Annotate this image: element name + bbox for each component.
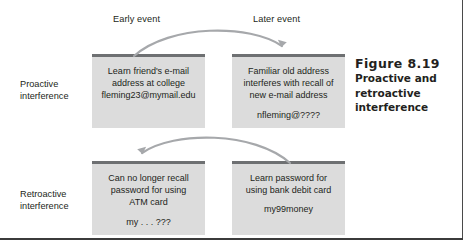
event-box-line: Can no longer recall [108,172,189,184]
event-box-line: my . . . ??? [126,216,171,228]
event-box-line: using bank debit card [246,184,332,196]
figure-caption-line: interference [355,100,455,115]
figure-caption-text: Proactive andretroactiveinterference [355,71,455,115]
event-box-line: new e-mail address [249,89,327,101]
row-label-line-1: Retroactive [20,189,69,201]
event-box-retroactive-early: Can no longer recallpassword for usingAT… [92,161,205,235]
figure-number: Figure 8.19 [355,56,455,71]
event-box-line: nfleming@???? [257,109,320,121]
event-box-line: Learn friend's e-mail [108,65,189,77]
event-box-line: address at college [112,77,185,89]
event-box-line: my99money [264,203,313,215]
event-box-line: Learn password for [250,172,327,184]
column-header-later-event: Later event [253,14,300,24]
page-edge-right [462,0,463,238]
row-label-line-2: interference [20,91,69,103]
row-label-line-1: Proactive [20,79,69,91]
column-header-early-event: Early event [113,14,160,24]
row-label-retroactive-interference: Retroactive interference [20,189,69,212]
row-label-line-2: interference [20,201,69,213]
event-box-retroactive-later: Learn password forusing bank debit cardm… [232,161,345,235]
event-box-proactive-later: Familiar old addressinterferes with reca… [232,54,345,128]
event-box-line: interferes with recall of [243,77,333,89]
figure-caption: Figure 8.19 Proactive andretroactiveinte… [355,56,455,115]
event-box-proactive-early: Learn friend's e-mailaddress at collegef… [92,54,205,128]
page-edge-shadow [0,240,476,250]
figure-caption-line: Proactive and [355,71,455,86]
figure-caption-line: retroactive [355,86,455,101]
row-label-proactive-interference: Proactive interference [20,79,69,102]
figure-diagram: Early event Later event Proactive interf… [0,0,476,250]
event-box-line: Familiar old address [248,65,329,77]
event-box-line: password for using [111,184,187,196]
event-box-line: ATM card [129,196,167,208]
event-box-line: fleming23@mymail.edu [101,89,195,101]
